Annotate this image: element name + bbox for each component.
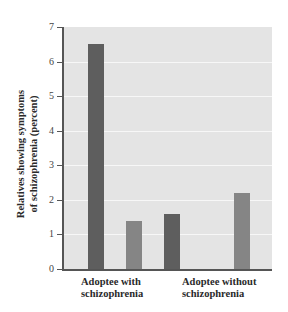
y-tick-label: 4 — [44, 126, 54, 136]
y-axis-label: Relatives showing symptoms of schizophre… — [15, 54, 41, 254]
x-category-label-2-line-1: Adoptee without — [182, 276, 256, 288]
y-tick-label: 2 — [44, 195, 54, 205]
y-tick-label: 0 — [44, 264, 54, 274]
y-tick — [57, 131, 62, 132]
y-tick — [57, 165, 62, 166]
bar-series-1-category-2 — [164, 214, 180, 269]
x-category-label-1: Adoptee with schizophrenia — [81, 276, 143, 300]
x-category-label-1-line-1: Adoptee with — [81, 276, 143, 288]
y-tick — [57, 269, 62, 270]
y-tick — [57, 200, 62, 201]
x-category-label-1-line-2: schizophrenia — [81, 288, 143, 300]
bar-series-2-category-1 — [126, 221, 142, 269]
y-tick-label: 7 — [44, 22, 54, 32]
x-category-label-2-line-2: schizophrenia — [182, 288, 256, 300]
y-tick — [57, 96, 62, 97]
y-tick — [57, 27, 62, 28]
y-axis-label-line-2: of schizophrenia (percent) — [28, 54, 41, 254]
y-tick-label: 3 — [44, 160, 54, 170]
y-axis-label-line-1: Relatives showing symptoms — [15, 54, 28, 254]
bar-series-1-category-1 — [88, 44, 104, 269]
y-tick — [57, 234, 62, 235]
y-tick-label: 5 — [44, 91, 54, 101]
y-tick-label: 1 — [44, 229, 54, 239]
x-category-label-2: Adoptee without schizophrenia — [182, 276, 256, 300]
y-tick-label: 6 — [44, 57, 54, 67]
x-axis-line — [62, 269, 272, 271]
y-tick — [57, 62, 62, 63]
bar-series-2-category-2 — [234, 193, 250, 269]
plot-area — [63, 27, 272, 269]
y-axis-line — [62, 27, 64, 270]
